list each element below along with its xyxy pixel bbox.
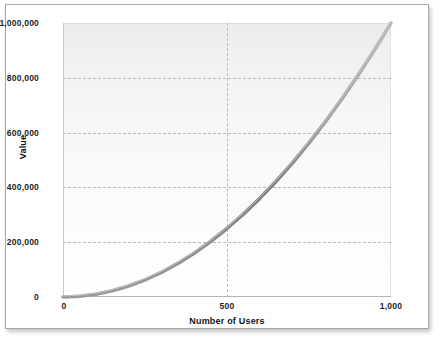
series-curve-value — [63, 23, 391, 297]
curve-highlight — [63, 22, 391, 296]
x-tick-label-500: 500 — [220, 301, 235, 311]
y-tick-label-1000000: 1,000,000 — [0, 18, 39, 28]
x-axis-title: Number of Users — [63, 316, 391, 326]
y-tick-label-200000: 200,000 — [0, 237, 39, 247]
y-tick-label-0: 0 — [0, 292, 39, 302]
y-tick-label-800000: 800,000 — [0, 73, 39, 83]
x-tick-label-0: 0 — [62, 301, 67, 311]
chart-card: 1,000,000 800,000 600,000 400,000 200,00… — [5, 4, 429, 329]
curve-path — [63, 23, 391, 297]
y-tick-label-400000: 400,000 — [0, 182, 39, 192]
plot-area — [63, 23, 391, 297]
chart-plot-wrapper: 1,000,000 800,000 600,000 400,000 200,00… — [6, 5, 428, 328]
y-axis-title: Value — [18, 117, 28, 177]
x-tick-label-1000: 1,000 — [380, 301, 402, 311]
